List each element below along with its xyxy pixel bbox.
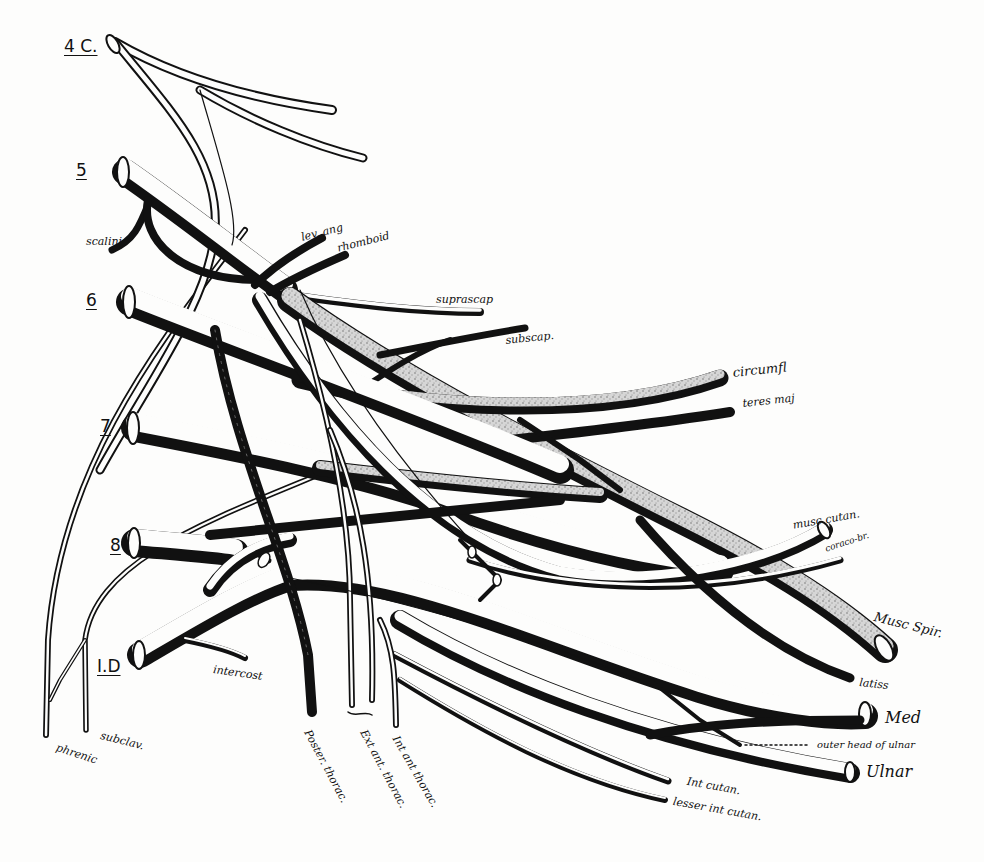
brachial-plexus-illustration [0,0,984,862]
root-label-c8: 8 [110,537,121,554]
root-label-c7: 7 [100,418,111,435]
root-label-c5: 5 [76,162,87,179]
label-suprascapular: suprascap [436,294,493,305]
subclavian-nerve [50,470,330,730]
diagram-canvas: 4 C. 5 6 7 8 I.D scalini lev. ang rhombo… [0,0,984,862]
root-label-t1: I.D [97,658,121,675]
label-scaleni: scalini [86,236,122,247]
label-latissimus: latiss [859,677,889,691]
root-label-c6: 6 [86,292,97,309]
c5-root [112,157,345,292]
root-label-c4: 4 C. [64,38,98,55]
label-ulnar: Ulnar [866,764,912,780]
label-median: Med [885,710,921,726]
label-outer-head-of-ulnar: outer head of ulnar [817,740,915,750]
internal-anterior-thoracic-nerve [380,620,396,725]
